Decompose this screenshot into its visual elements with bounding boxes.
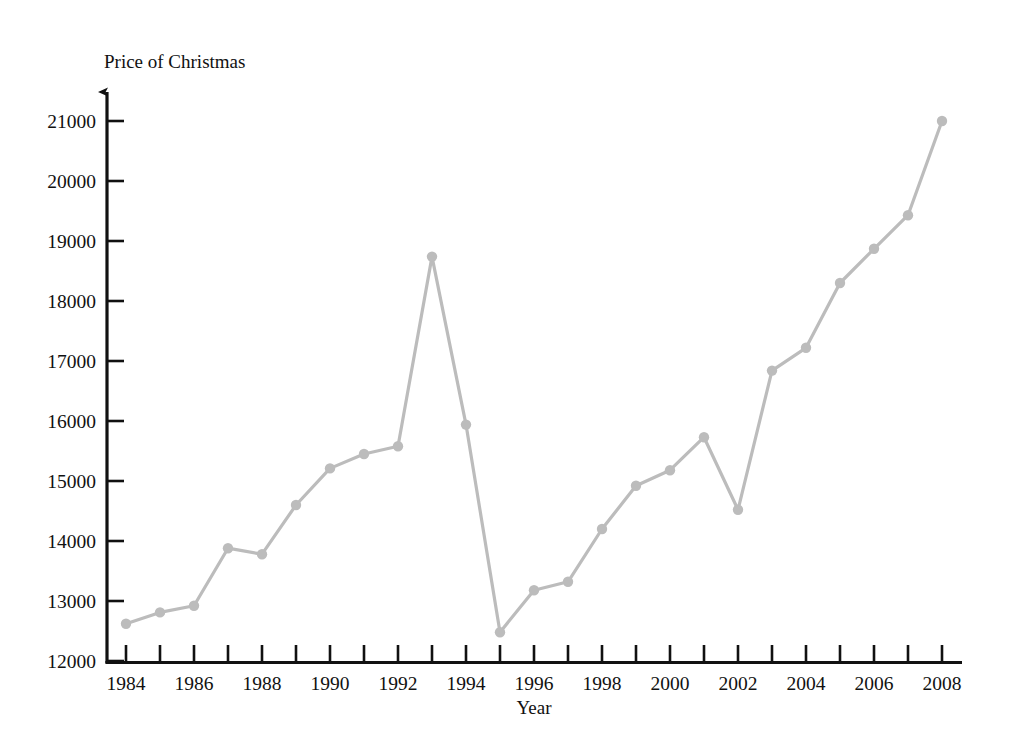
y-axis-title: Price of Christmas <box>104 51 245 72</box>
y-tick-label: 18000 <box>47 291 96 312</box>
data-point <box>223 543 233 553</box>
y-tick-label: 14000 <box>47 531 96 552</box>
data-point <box>699 432 709 442</box>
data-point <box>325 463 335 473</box>
x-tick-label: 1998 <box>583 673 622 694</box>
x-tick-label: 1986 <box>175 673 214 694</box>
data-point <box>155 607 165 617</box>
data-point <box>767 365 777 375</box>
data-point <box>529 585 539 595</box>
data-point <box>869 244 879 254</box>
x-tick-label: 1994 <box>447 673 486 694</box>
data-point <box>291 500 301 510</box>
data-point <box>801 343 811 353</box>
data-point <box>495 627 505 637</box>
y-axis-tick-labels: 1200013000140001500016000170001800019000… <box>47 111 96 672</box>
data-point <box>393 441 403 451</box>
x-tick-label: 2008 <box>923 673 962 694</box>
data-point <box>733 505 743 515</box>
x-tick-label: 1996 <box>515 673 554 694</box>
x-axis-title: Year <box>516 697 552 718</box>
x-tick-label: 2002 <box>719 673 758 694</box>
data-point <box>257 549 267 559</box>
data-point <box>563 577 573 587</box>
series-line-path <box>126 121 942 632</box>
x-tick-label: 1984 <box>107 673 146 694</box>
y-tick-label: 21000 <box>47 111 96 132</box>
data-point <box>835 278 845 288</box>
data-point <box>631 481 641 491</box>
y-axis-ticks <box>107 121 124 661</box>
data-point <box>189 601 199 611</box>
data-point <box>937 116 947 126</box>
data-point <box>903 210 913 220</box>
y-tick-label: 17000 <box>47 351 96 372</box>
y-tick-label: 12000 <box>47 651 96 672</box>
chart-container: 1200013000140001500016000170001800019000… <box>0 0 1016 746</box>
y-tick-label: 19000 <box>47 231 96 252</box>
y-tick-label: 13000 <box>47 591 96 612</box>
data-point <box>597 524 607 534</box>
line-chart: 1200013000140001500016000170001800019000… <box>0 0 1016 746</box>
x-tick-label: 2006 <box>855 673 894 694</box>
x-tick-label: 2004 <box>787 673 826 694</box>
x-tick-label: 1990 <box>311 673 350 694</box>
x-tick-label: 1992 <box>379 673 418 694</box>
y-tick-label: 20000 <box>47 171 96 192</box>
data-point <box>427 251 437 261</box>
x-tick-label: 1988 <box>243 673 282 694</box>
y-tick-label: 16000 <box>47 411 96 432</box>
y-tick-label: 15000 <box>47 471 96 492</box>
data-point <box>121 619 131 629</box>
axes <box>105 92 962 663</box>
x-axis-ticks <box>126 645 942 662</box>
data-point <box>359 449 369 459</box>
series-markers <box>121 116 947 638</box>
data-point <box>461 419 471 429</box>
x-tick-label: 2000 <box>651 673 690 694</box>
data-series-price-of-christmas <box>121 116 947 638</box>
x-axis-tick-labels: 1984198619881990199219941996199820002002… <box>107 673 962 694</box>
data-point <box>665 465 675 475</box>
